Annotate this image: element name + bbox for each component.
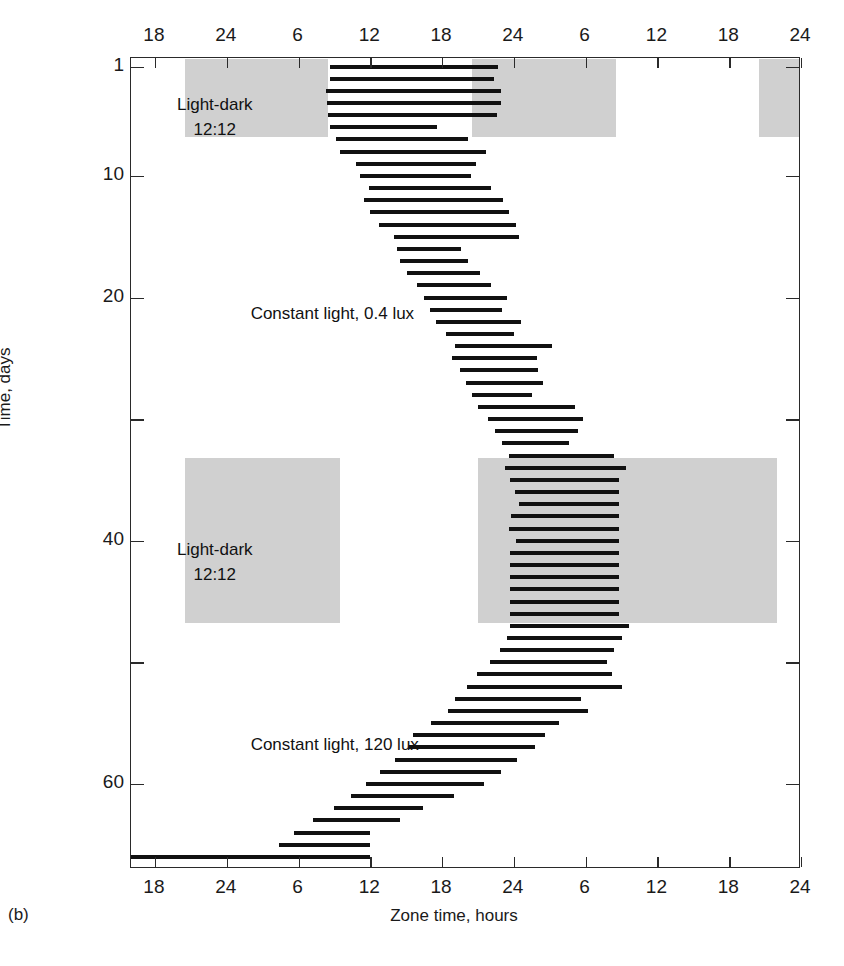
activity-bar [327,101,500,105]
annotation-line: Constant light, 120 lux [251,735,419,755]
x-tick [801,58,802,68]
y-tick [131,541,144,542]
activity-bar [510,612,619,616]
activity-bar [519,502,620,506]
activity-bar [340,150,486,154]
activity-bar [279,843,370,847]
dark-phase-block [759,59,799,137]
activity-bar [515,490,619,494]
x-tick [586,58,587,68]
x-tick [370,857,371,867]
activity-bar [369,186,491,190]
x-tick [299,58,300,68]
actogram-figure: 182461218246121824 Light-dark12:12Consta… [0,0,844,966]
annotation-ld-bottom: Light-dark12:12 [177,538,253,587]
activity-bar [446,332,514,336]
activity-bar [510,587,619,591]
activity-bar [294,831,371,835]
y-tick-right [786,541,799,542]
y-tick [131,784,144,785]
activity-bar [397,247,462,251]
activity-bar [351,794,454,798]
x-tick [586,857,587,867]
annotation-line: Light-dark [177,93,253,118]
x-tick-label: 24 [483,876,543,898]
activity-bar [509,527,619,531]
activity-bar [356,162,476,166]
activity-bar [505,466,626,470]
x-tick [442,857,443,867]
activity-bar [448,709,588,713]
x-tick-label: 24 [196,24,256,46]
annotation-ld-top: Light-dark12:12 [177,93,253,142]
x-axis-title-text: Zone time, hours [390,906,518,925]
activity-bar [478,405,575,409]
plot-area: Light-dark12:12Constant light, 0.4 luxLi… [130,57,800,868]
x-tick-label: 6 [555,876,615,898]
activity-bar [409,745,536,749]
activity-bar [500,648,615,652]
activity-bar [510,624,628,628]
y-tick [131,662,144,663]
x-tick-label: 12 [626,876,686,898]
y-tick-right [786,176,799,177]
activity-bar [502,441,569,445]
y-tick-right [786,67,799,68]
activity-bar [436,320,521,324]
activity-bar [336,137,469,141]
x-tick-label: 12 [626,24,686,46]
activity-bar [417,283,491,287]
activity-bar [488,417,584,421]
panel-label: (b) [8,905,29,925]
annotation-line: 12:12 [177,563,253,588]
x-tick-label: 24 [196,876,256,898]
y-tick [131,419,144,420]
activity-bar [510,600,619,604]
activity-bar [510,563,619,567]
y-tick-label: 20 [74,285,124,307]
x-tick-label: 12 [339,24,399,46]
x-tick [299,857,300,867]
activity-bar [360,174,471,178]
activity-bar [334,806,423,810]
activity-bar [467,685,621,689]
x-tick [729,857,730,867]
y-tick [131,176,144,177]
activity-bar [510,478,619,482]
x-tick-label: 24 [770,876,830,898]
y-axis-title: Time, days [0,347,15,430]
x-tick [155,857,156,867]
activity-bar [511,514,619,518]
y-tick-right [786,419,799,420]
activity-bar [328,113,497,117]
x-tick [657,857,658,867]
plot-inner: Light-dark12:12Constant light, 0.4 luxLi… [131,58,799,867]
annotation-ll-120: Constant light, 120 lux [251,735,419,755]
y-tick-right [786,784,799,785]
x-tick [442,58,443,68]
activity-bar [330,77,494,81]
activity-bar [366,782,484,786]
activity-bar [313,818,400,822]
activity-bar [431,721,559,725]
x-tick-label: 12 [339,876,399,898]
y-tick-label: 10 [74,163,124,185]
activity-bar [379,223,517,227]
activity-bar [394,235,518,239]
y-tick-right [786,662,799,663]
y-tick-right [786,298,799,299]
annotation-ll-04: Constant light, 0.4 lux [251,304,414,324]
x-tick-label: 6 [268,24,328,46]
y-tick-label: 60 [74,771,124,793]
x-tick [514,857,515,867]
activity-bar [330,65,499,69]
activity-bar [466,381,543,385]
activity-bar [490,660,607,664]
activity-bar [430,308,502,312]
activity-bar [510,575,619,579]
x-tick [729,58,730,68]
activity-bar [516,539,619,543]
activity-bar [495,429,579,433]
activity-bar [131,855,370,859]
x-tick-label: 6 [268,876,328,898]
